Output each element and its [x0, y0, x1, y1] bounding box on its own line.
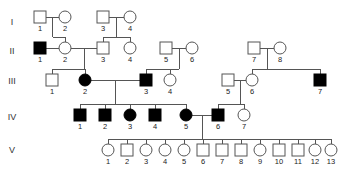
person-id-label-II-8: 8	[278, 55, 282, 64]
person-V-12-circle-open[interactable]	[309, 144, 321, 156]
person-II-3-square-open[interactable]	[97, 42, 109, 54]
person-id-label-III-7: 7	[318, 87, 322, 96]
person-id-label-IV-4: 4	[153, 122, 157, 131]
person-id-label-V-3: 3	[144, 157, 148, 166]
person-id-label-II-5: 5	[164, 55, 168, 64]
person-II-6-circle-open[interactable]	[186, 42, 198, 54]
person-id-label-III-6: 6	[250, 87, 254, 96]
pedigree-diagram: 1234123456781234567123456712345678910111…	[0, 0, 342, 172]
person-V-3-circle-open[interactable]	[140, 144, 152, 156]
person-V-13-circle-open[interactable]	[325, 144, 337, 156]
person-III-6-circle-open[interactable]	[246, 74, 258, 86]
person-id-label-V-6: 6	[201, 157, 205, 166]
person-I-4-circle-open[interactable]	[124, 11, 136, 23]
person-V-7-square-open[interactable]	[216, 144, 228, 156]
person-id-label-III-3: 3	[144, 87, 148, 96]
individual-symbols	[34, 11, 337, 156]
person-IV-6-square-filled[interactable]	[212, 109, 224, 121]
person-I-3-square-open[interactable]	[97, 11, 109, 23]
person-id-label-III-4: 4	[168, 87, 172, 96]
generation-label-V: V	[9, 145, 15, 155]
person-III-4-circle-open[interactable]	[164, 74, 176, 86]
person-I-1-square-open[interactable]	[34, 11, 46, 23]
person-id-label-III-5: 5	[226, 87, 230, 96]
generation-label-III: III	[8, 76, 16, 86]
person-II-8-circle-open[interactable]	[274, 42, 286, 54]
generation-label-II: II	[9, 46, 14, 56]
person-II-5-square-open[interactable]	[160, 42, 172, 54]
generation-labels: IIIIIIIVV	[8, 17, 17, 155]
person-V-5-circle-open[interactable]	[178, 144, 190, 156]
person-IV-2-square-filled[interactable]	[99, 109, 111, 121]
generation-label-I: I	[11, 17, 14, 27]
person-id-label-IV-3: 3	[128, 122, 132, 131]
person-id-label-V-2: 2	[125, 157, 129, 166]
person-V-11-square-open[interactable]	[292, 144, 304, 156]
person-id-label-I-1: 1	[38, 24, 42, 33]
person-IV-7-circle-open[interactable]	[238, 109, 250, 121]
person-id-label-II-1: 1	[38, 55, 42, 64]
person-id-label-II-6: 6	[190, 55, 194, 64]
person-V-2-square-open[interactable]	[121, 144, 133, 156]
person-II-4-circle-open[interactable]	[124, 42, 136, 54]
person-IV-4-square-filled[interactable]	[149, 109, 161, 121]
person-I-2-circle-open[interactable]	[59, 11, 71, 23]
person-id-label-II-4: 4	[128, 55, 132, 64]
person-id-label-V-12: 12	[311, 157, 319, 166]
person-id-label-V-11: 11	[294, 157, 302, 166]
person-II-7-square-open[interactable]	[248, 42, 260, 54]
person-V-6-square-open[interactable]	[197, 144, 209, 156]
pedigree-chart: 1234123456781234567123456712345678910111…	[0, 0, 342, 172]
person-id-label-IV-6: 6	[216, 122, 220, 131]
person-III-7-square-filled[interactable]	[314, 74, 326, 86]
person-V-8-square-open[interactable]	[235, 144, 247, 156]
person-V-4-circle-open[interactable]	[159, 144, 171, 156]
person-id-label-V-10: 10	[275, 157, 283, 166]
person-id-label-V-5: 5	[182, 157, 186, 166]
person-V-10-square-open[interactable]	[273, 144, 285, 156]
person-IV-5-circle-filled[interactable]	[180, 109, 192, 121]
person-id-label-V-4: 4	[163, 157, 167, 166]
person-III-2-circle-filled[interactable]	[79, 74, 91, 86]
person-id-label-II-7: 7	[252, 55, 256, 64]
person-id-label-V-8: 8	[239, 157, 243, 166]
person-V-1-circle-open[interactable]	[102, 144, 114, 156]
person-id-label-IV-2: 2	[103, 122, 107, 131]
person-id-label-IV-5: 5	[184, 122, 188, 131]
person-V-9-circle-open[interactable]	[254, 144, 266, 156]
person-id-label-I-4: 4	[128, 24, 132, 33]
person-III-5-square-open[interactable]	[222, 74, 234, 86]
person-id-label-V-13: 13	[327, 157, 335, 166]
person-id-label-III-2: 2	[83, 87, 87, 96]
person-II-1-square-filled[interactable]	[34, 42, 46, 54]
person-id-label-IV-1: 1	[78, 122, 82, 131]
person-id-label-V-1: 1	[106, 157, 110, 166]
person-II-2-circle-open[interactable]	[59, 42, 71, 54]
person-III-3-square-filled[interactable]	[140, 74, 152, 86]
person-id-label-I-3: 3	[101, 24, 105, 33]
person-id-label-II-3: 3	[101, 55, 105, 64]
person-III-1-square-open[interactable]	[46, 74, 58, 86]
person-id-label-I-2: 2	[63, 24, 67, 33]
person-IV-3-circle-filled[interactable]	[124, 109, 136, 121]
person-id-label-III-1: 1	[50, 87, 54, 96]
generation-label-IV: IV	[8, 112, 17, 122]
person-id-label-V-9: 9	[258, 157, 262, 166]
person-IV-1-square-filled[interactable]	[74, 109, 86, 121]
person-id-label-IV-7: 7	[242, 122, 246, 131]
person-id-label-V-7: 7	[220, 157, 224, 166]
person-id-label-II-2: 2	[63, 55, 67, 64]
